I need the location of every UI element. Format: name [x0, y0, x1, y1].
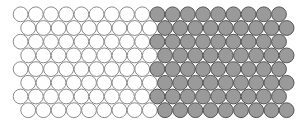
gray-circle [226, 89, 241, 104]
white-circle [21, 48, 36, 63]
gray-circle [272, 34, 287, 49]
gray-circle [249, 75, 264, 90]
gray-circle [180, 7, 195, 22]
gray-circle [234, 21, 249, 36]
gray-circle [279, 21, 294, 36]
white-circle [28, 62, 43, 77]
gray-circle [211, 7, 226, 22]
white-circle [82, 103, 97, 118]
white-circle [66, 48, 81, 63]
circle-packing-diagram [0, 0, 304, 124]
white-circle [74, 7, 89, 22]
gray-circle [256, 34, 271, 49]
gray-circle [279, 48, 294, 63]
white-circle [82, 21, 97, 36]
white-circle [59, 7, 74, 22]
gray-circle [180, 89, 195, 104]
gray-circle [188, 103, 203, 118]
gray-circle [249, 48, 264, 63]
white-circle [28, 89, 43, 104]
gray-circle [241, 34, 256, 49]
white-circle [97, 103, 112, 118]
white-circle [13, 62, 28, 77]
gray-circle [203, 103, 218, 118]
gray-circle [218, 48, 233, 63]
gray-circle [173, 21, 188, 36]
white-circle [13, 89, 28, 104]
gray-circle [180, 34, 195, 49]
white-circle [89, 62, 104, 77]
gray-circle [256, 89, 271, 104]
gray-circle [264, 103, 279, 118]
white-circle [21, 103, 36, 118]
gray-circle [173, 75, 188, 90]
gray-circle [180, 62, 195, 77]
white-circle [44, 62, 59, 77]
gray-circle [241, 62, 256, 77]
white-circle [44, 89, 59, 104]
white-circle [142, 21, 157, 36]
gray-circle [150, 89, 165, 104]
gray-circle [196, 34, 211, 49]
white-circle [28, 34, 43, 49]
white-circle [120, 89, 135, 104]
gray-circle [256, 62, 271, 77]
gray-circle [218, 75, 233, 90]
white-circle [82, 48, 97, 63]
white-circle [120, 62, 135, 77]
white-circle [142, 103, 157, 118]
white-circle [127, 75, 142, 90]
white-circle [142, 48, 157, 63]
white-circle [36, 75, 51, 90]
gray-circle [264, 48, 279, 63]
white-circle [127, 48, 142, 63]
gray-circle [165, 62, 180, 77]
gray-circle [249, 21, 264, 36]
white-circle [13, 7, 28, 22]
gray-circle [203, 75, 218, 90]
white-circle [21, 21, 36, 36]
gray-circle [218, 21, 233, 36]
gray-circle [158, 21, 173, 36]
white-circle [135, 34, 150, 49]
white-circle [21, 75, 36, 90]
white-circle [66, 21, 81, 36]
gray-circle [188, 75, 203, 90]
gray-circle [234, 103, 249, 118]
white-circle [112, 103, 127, 118]
gray-circle [173, 103, 188, 118]
gray-circle [196, 7, 211, 22]
gray-circle [218, 103, 233, 118]
gray-circle [241, 89, 256, 104]
gray-circle [203, 48, 218, 63]
circle-group [13, 7, 294, 118]
gray-circle [279, 103, 294, 118]
white-circle [51, 75, 66, 90]
white-circle [112, 48, 127, 63]
gray-circle [158, 75, 173, 90]
white-circle [135, 7, 150, 22]
white-circle [13, 34, 28, 49]
gray-circle [165, 7, 180, 22]
gray-circle [150, 7, 165, 22]
gray-circle [188, 48, 203, 63]
gray-circle [211, 89, 226, 104]
white-circle [97, 48, 112, 63]
gray-circle [211, 34, 226, 49]
gray-circle [196, 89, 211, 104]
gray-circle [188, 21, 203, 36]
white-circle [104, 89, 119, 104]
gray-circle [150, 62, 165, 77]
white-circle [51, 21, 66, 36]
gray-circle [226, 34, 241, 49]
gray-circle [241, 7, 256, 22]
white-circle [127, 21, 142, 36]
white-circle [66, 75, 81, 90]
white-circle [104, 34, 119, 49]
white-circle [74, 34, 89, 49]
white-circle [66, 103, 81, 118]
gray-circle [234, 48, 249, 63]
white-circle [51, 103, 66, 118]
gray-circle [234, 75, 249, 90]
gray-circle [256, 7, 271, 22]
